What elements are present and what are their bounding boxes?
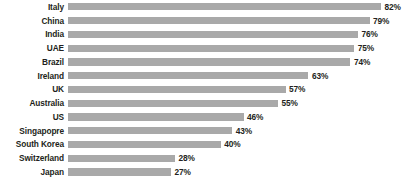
bar (68, 58, 350, 65)
bar-track: 57% (68, 83, 411, 97)
value-label: 43% (236, 127, 252, 135)
bar-row: UK57% (0, 83, 411, 97)
bar-row: Australia55% (0, 96, 411, 110)
bar (68, 86, 286, 93)
category-label: UK (0, 85, 68, 93)
category-label: China (0, 17, 68, 25)
category-label: US (0, 113, 68, 121)
category-label: India (0, 30, 68, 38)
category-label: UAE (0, 44, 68, 52)
value-label: 40% (224, 140, 240, 148)
bar-row: Singapopre43% (0, 124, 411, 138)
value-label: 28% (178, 154, 194, 162)
bar-track: 55% (68, 96, 411, 110)
bar (68, 127, 232, 134)
bar-track: 63% (68, 69, 411, 83)
bar-row: Switzerland28% (0, 151, 411, 165)
bar-track: 28% (68, 151, 411, 165)
value-label: 74% (354, 58, 370, 66)
bar-track: 76% (68, 28, 411, 42)
bar (68, 45, 354, 52)
value-label: 76% (362, 30, 378, 38)
bar-row: US46% (0, 110, 411, 124)
bar-row: Italy82% (0, 0, 411, 14)
bar-row: Brazil74% (0, 55, 411, 69)
category-label: South Korea (0, 140, 68, 148)
category-label: Italy (0, 3, 68, 11)
bar-track: 75% (68, 41, 411, 55)
bar-row: India76% (0, 28, 411, 42)
bar-track: 40% (68, 138, 411, 152)
bar-row: UAE75% (0, 41, 411, 55)
bar-row: Japan27% (0, 165, 411, 179)
bar (68, 100, 278, 107)
bar (68, 155, 175, 162)
bar-track: 74% (68, 55, 411, 69)
category-label: Ireland (0, 72, 68, 80)
category-label: Australia (0, 99, 68, 107)
bar-row: South Korea40% (0, 138, 411, 152)
bar (68, 17, 370, 24)
bar (68, 72, 308, 79)
bar (68, 141, 221, 148)
plot-area: Italy82%China79%India76%UAE75%Brazil74%I… (0, 0, 411, 179)
horizontal-bar-chart: Italy82%China79%India76%UAE75%Brazil74%I… (0, 0, 411, 179)
category-label: Brazil (0, 58, 68, 66)
category-label: Singapopre (0, 127, 68, 135)
value-label: 57% (289, 85, 305, 93)
category-label: Japan (0, 168, 68, 176)
bar (68, 168, 171, 175)
bar-track: 43% (68, 124, 411, 138)
category-label: Switzerland (0, 154, 68, 162)
value-label: 82% (385, 3, 401, 11)
value-label: 75% (358, 44, 374, 52)
value-label: 27% (175, 168, 191, 176)
value-label: 63% (312, 72, 328, 80)
value-label: 46% (247, 113, 263, 121)
bar (68, 113, 244, 120)
bar (68, 31, 358, 38)
bar-row: Ireland63% (0, 69, 411, 83)
bar-track: 46% (68, 110, 411, 124)
value-label: 55% (281, 99, 297, 107)
value-label: 79% (373, 17, 389, 25)
bar-track: 82% (68, 0, 411, 14)
bar-track: 27% (68, 165, 411, 179)
bar (68, 3, 381, 10)
bar-row: China79% (0, 14, 411, 28)
bar-track: 79% (68, 14, 411, 28)
